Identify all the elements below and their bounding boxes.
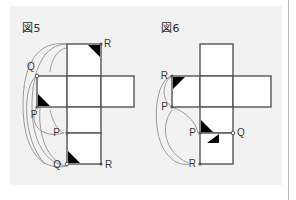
fig6-arc-p-to-r	[165, 110, 188, 163]
fig6-label-q: Q	[237, 127, 245, 138]
fig5-label-r-bottom: R	[105, 159, 112, 170]
fig5-label-r-top: R	[104, 38, 111, 49]
fig6-dot-p-top	[170, 105, 173, 108]
fig5-net	[37, 44, 134, 164]
fig6-dot-r-top	[170, 74, 173, 77]
fig5-face-bottom	[67, 107, 101, 133]
fig5-face-right	[101, 76, 134, 107]
fig6-label-r-bot: R	[189, 158, 196, 169]
fig5-face-center	[67, 76, 101, 107]
fig5-label-q-upper: Q	[27, 61, 35, 72]
fig5-dot-q-lower	[65, 162, 69, 166]
figure-5-group: R Q P P Q R	[23, 38, 134, 170]
fig6-face-right	[233, 76, 271, 107]
fig5-dot-p-mid	[65, 131, 68, 134]
fig5-dot-r-bottom	[99, 162, 102, 165]
fig5-label-q-lower: Q	[53, 159, 61, 170]
fig5-dot-r-top	[99, 42, 102, 45]
fig6-face-center	[200, 76, 233, 107]
fig5-arc-small-top	[50, 48, 67, 72]
fig6-label-p-top: P	[161, 101, 168, 112]
fig6-dot-q	[231, 131, 235, 135]
fig6-face-top	[200, 44, 233, 76]
figure-6-caption: 図6	[161, 19, 180, 35]
fig6-label-r-top: R	[161, 70, 168, 81]
fig6-dot-r-bot	[198, 162, 201, 165]
fig6-vertex-dots	[231, 131, 235, 135]
fig6-dot-p-mid	[198, 131, 201, 134]
figures-svg: R Q P P Q R	[0, 0, 296, 200]
figure-6-group: R P P Q R	[156, 44, 271, 169]
fig6-label-p-mid: P	[189, 127, 196, 138]
fig6-net	[172, 44, 271, 164]
figure-5-caption: 図5	[22, 19, 41, 35]
fig5-label-p-mid: P	[53, 127, 60, 138]
fig5-label-p-left: P	[31, 109, 38, 120]
fig5-dot-q-upper	[35, 74, 39, 78]
screenshot-root: R Q P P Q R	[0, 0, 296, 200]
